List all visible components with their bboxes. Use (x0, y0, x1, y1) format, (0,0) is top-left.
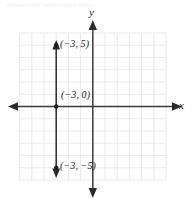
point-marker-middle (54, 104, 58, 108)
point-label-middle: (−3, 0) (61, 89, 90, 100)
point-label-top: (−3, 5) (60, 38, 89, 49)
point-marker-bottom (54, 166, 58, 170)
line-down-arrowhead (52, 169, 60, 179)
point-marker-top (54, 43, 58, 47)
plot-canvas (0, 0, 195, 203)
y-axis-up-arrowhead (89, 20, 97, 30)
y-axis-down-arrowhead (89, 188, 97, 198)
point-label-bottom: (−3, −5) (60, 160, 96, 171)
x-axis (8, 102, 182, 110)
coordinate-plane-figure: mmmm mm mmm mmm mmm (0, 0, 195, 203)
plotted-line-x-equals-negative-3 (52, 40, 60, 178)
y-axis (89, 20, 97, 198)
y-axis-label: y (89, 6, 94, 18)
x-axis-label: x (179, 99, 184, 111)
x-axis-left-arrowhead (8, 102, 18, 110)
